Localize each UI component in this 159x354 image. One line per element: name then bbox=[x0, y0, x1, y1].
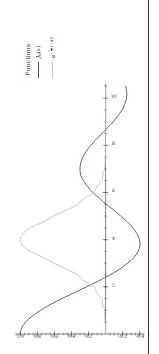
major-ticks-group bbox=[20, 98, 139, 337]
legend-swatch-bessel-j0 bbox=[38, 62, 39, 78]
rotated-figure-stage: 246810 -0.4-0.20.20.40.60.81.0 Functions… bbox=[10, 12, 150, 342]
curve-gaussian bbox=[20, 86, 105, 334]
y-tick-label: 0.4 bbox=[67, 335, 74, 340]
legend-item-gaussian[interactable]: e−12(x−4)2 bbox=[47, 16, 56, 78]
page-canvas: 246810 -0.4-0.20.20.40.60.81.0 Functions… bbox=[0, 0, 159, 354]
x-tick-label: 10 bbox=[110, 94, 116, 99]
curve-bessel-j0 bbox=[20, 86, 140, 334]
minor-ticks-group bbox=[16, 86, 144, 335]
plot-svg: 246810 -0.4-0.20.20.40.60.81.0 bbox=[16, 84, 144, 334]
legend: Functions J0(x) e−12(x−4)2 bbox=[24, 16, 62, 78]
x-tick-label: 2 bbox=[112, 283, 115, 288]
y-tick-label: 0.2 bbox=[84, 335, 91, 340]
legend-label-bessel-j0: J0(x) bbox=[36, 46, 42, 58]
legend-item-bessel-j0[interactable]: J0(x) bbox=[36, 16, 42, 78]
plot-area: 246810 -0.4-0.20.20.40.60.81.0 bbox=[16, 84, 144, 334]
x-tick-label: 6 bbox=[112, 188, 115, 193]
x-tick-labels: 246810 bbox=[110, 94, 116, 288]
legend-title: Functions bbox=[24, 16, 31, 76]
x-tick-label: 8 bbox=[112, 141, 115, 146]
y-tick-label: -0.2 bbox=[118, 335, 127, 340]
legend-label-gaussian: e−12(x−4)2 bbox=[47, 37, 56, 58]
y-tick-label: 1.0 bbox=[16, 335, 23, 340]
legend-swatch-gaussian bbox=[51, 62, 52, 78]
y-tick-label: 0.6 bbox=[50, 335, 57, 340]
x-tick-label: 4 bbox=[112, 236, 115, 241]
figure: 246810 -0.4-0.20.20.40.60.81.0 Functions… bbox=[10, 12, 150, 342]
curves-group bbox=[20, 86, 140, 334]
y-tick-label: -0.4 bbox=[135, 335, 144, 340]
y-tick-label: 0.8 bbox=[33, 335, 40, 340]
